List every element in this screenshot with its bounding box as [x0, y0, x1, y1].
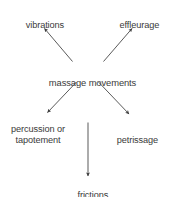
node-effleurage: effleurage [100, 9, 169, 42]
node-vibrations: vibrations [0, 9, 80, 42]
node-percussion-or-tapotement: percussion or tapotement [0, 124, 76, 146]
node-massage-movements-label: massage movements [49, 77, 136, 88]
node-percussion-or-tapotement-label-line2: tapotement [16, 135, 61, 145]
node-vibrations-label: vibrations [26, 20, 64, 30]
node-petrissage: petrissage [96, 124, 169, 157]
node-frictions-label: frictions [78, 190, 109, 197]
node-effleurage-label: effleurage [120, 20, 160, 30]
node-frictions: frictions [48, 179, 128, 197]
massage-movements-diagram: vibrations effleurage massage movements … [0, 0, 169, 197]
node-percussion-or-tapotement-label-line1: percussion or [11, 124, 65, 134]
node-petrissage-label: petrissage [117, 135, 158, 145]
node-massage-movements: massage movements [24, 66, 151, 99]
